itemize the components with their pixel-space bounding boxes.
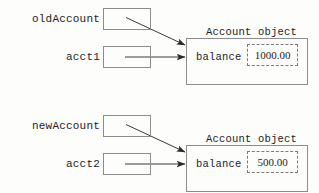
reference-box-newaccount[interactable] [103,115,151,137]
field-value-balance-bottom: 500.00 [257,157,287,168]
reference-box-acct1[interactable] [103,46,151,68]
reference-box-acct2[interactable] [103,153,151,175]
field-label-balance-top: balance [196,52,242,63]
reference-box-oldaccount[interactable] [103,8,151,30]
field-value-box-balance-top: 1000.00 [247,44,298,66]
variable-label-newaccount: newAccount [8,121,100,132]
variable-label-acct1: acct1 [8,52,100,63]
object-reference-diagram: oldAccount acct1 Account object balance … [0,0,319,193]
field-label-balance-bottom: balance [196,159,242,170]
field-value-balance-top: 1000.00 [255,50,291,61]
object-title-bottom: Account object [206,134,297,145]
variable-label-oldaccount: oldAccount [8,14,100,25]
variable-label-acct2: acct2 [8,159,100,170]
field-value-box-balance-bottom: 500.00 [247,151,298,173]
object-title-top: Account object [206,27,297,38]
